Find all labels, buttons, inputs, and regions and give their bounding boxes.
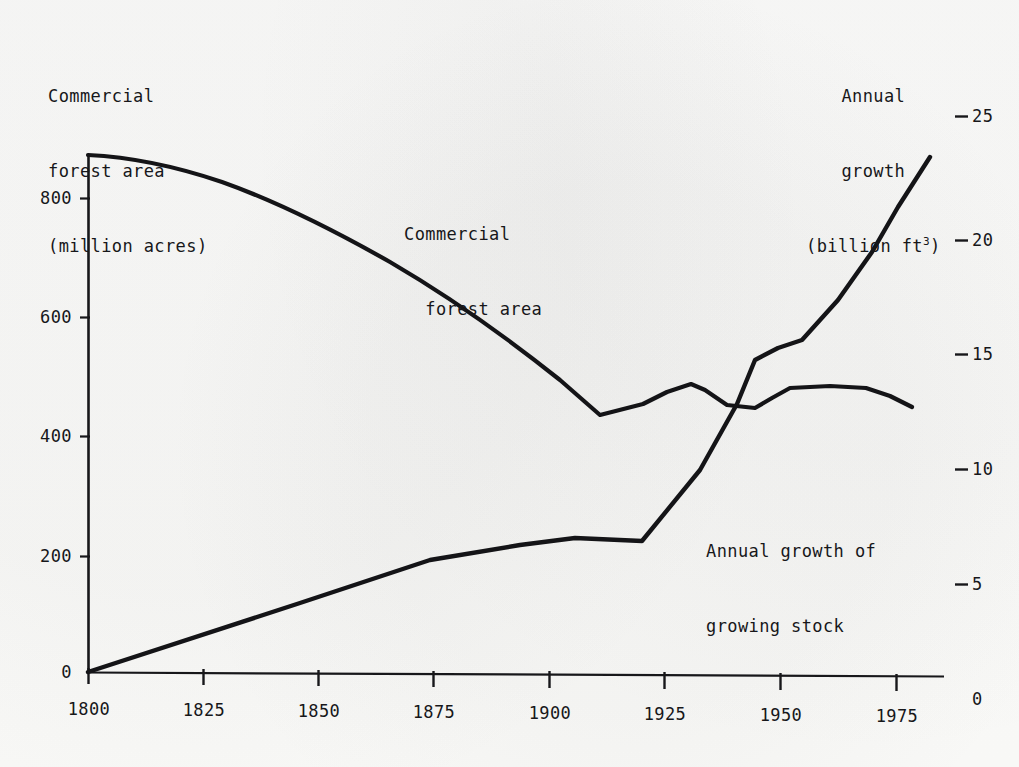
annotation-annual-growth-of-growing-stock: Annual growth of growing stock <box>706 489 876 689</box>
right-axis-title-line-3: (billion ft3) <box>806 234 941 259</box>
right-axis-title-line-3-text: (billion ft <box>806 236 923 256</box>
left-axis-title-line-2: forest area <box>48 159 208 184</box>
x-tick-label-1950: 1950 <box>736 706 826 725</box>
right-axis-title: Annual growth (billion ft3) <box>806 34 941 309</box>
left-axis-title: Commercial forest area (million acres) <box>48 34 208 309</box>
right-tick-label-25: 25 <box>972 107 1018 126</box>
x-tick-label-1800: 1800 <box>44 700 134 719</box>
left-tick-label-800: 800 <box>0 189 72 208</box>
right-tick-label-0: 0 <box>972 690 1018 709</box>
right-axis-title-line-1: Annual <box>806 84 941 109</box>
right-tick-label-15: 15 <box>972 345 1018 364</box>
left-tick-label-0: 0 <box>0 663 72 682</box>
x-tick-label-1975: 1975 <box>852 707 942 726</box>
annotation-growth-line-2: growing stock <box>706 614 876 639</box>
annotation-forest-line-2: forest area <box>404 297 542 322</box>
x-tick-label-1925: 1925 <box>620 705 710 724</box>
annotation-forest-line-1: Commercial <box>404 222 542 247</box>
right-tick-label-5: 5 <box>972 575 1018 594</box>
x-tick-label-1850: 1850 <box>274 702 364 721</box>
left-tick-label-400: 400 <box>0 427 72 446</box>
left-axis-title-line-3: (million acres) <box>48 234 208 259</box>
left-tick-label-200: 200 <box>0 547 72 566</box>
right-axis-title-tail: ) <box>930 236 941 256</box>
right-axis-title-line-2: growth <box>806 159 941 184</box>
x-tick-label-1825: 1825 <box>159 701 249 720</box>
annotation-growth-line-1: Annual growth of <box>706 539 876 564</box>
left-axis-title-line-1: Commercial <box>48 84 208 109</box>
right-tick-label-10: 10 <box>972 460 1018 479</box>
annotation-commercial-forest-area: Commercial forest area <box>404 172 542 372</box>
left-tick-label-600: 600 <box>0 308 72 327</box>
x-tick-label-1875: 1875 <box>389 703 479 722</box>
x-tick-label-1900: 1900 <box>505 704 595 723</box>
right-axis-title-superscript: 3 <box>923 235 930 248</box>
right-axis-ticks <box>955 117 968 585</box>
right-tick-label-20: 20 <box>972 231 1018 250</box>
figure-canvas: Commercial forest area (million acres) A… <box>0 0 1019 767</box>
